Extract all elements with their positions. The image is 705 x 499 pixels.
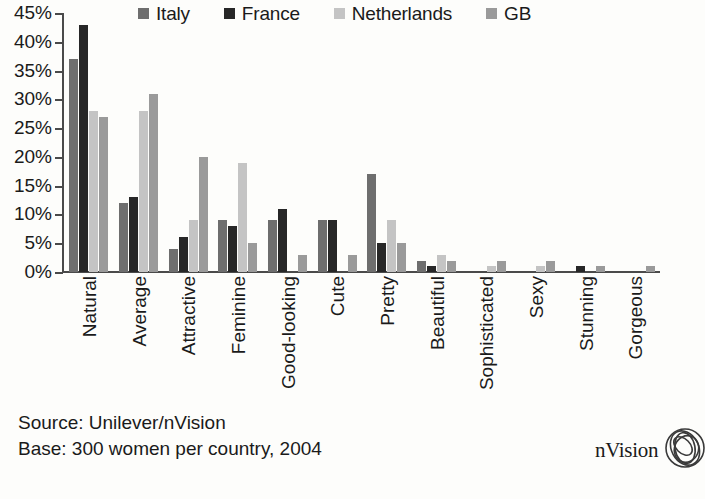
x-axis-tick-label: Average — [129, 276, 148, 346]
bar-france-attractive[interactable] — [179, 237, 188, 272]
source-line: Source: Unilever/nVision — [18, 410, 322, 436]
bar-gb-beautiful[interactable] — [447, 261, 456, 273]
y-axis-labels: 45%40%35%30%25%20%15%10%5%0% — [0, 0, 52, 290]
bar-netherlands-attractive[interactable] — [189, 220, 198, 272]
brand-name: nVision — [595, 440, 658, 461]
bar-cluster — [461, 13, 511, 272]
bar-netherlands-sexy[interactable] — [536, 266, 545, 272]
bar-france-cute[interactable] — [328, 220, 337, 272]
y-axis-tick-mark — [55, 186, 63, 188]
x-axis-tick-label: Attractive — [179, 276, 198, 355]
bar-netherlands-beautiful[interactable] — [437, 255, 446, 272]
bar-cluster — [312, 13, 362, 272]
y-axis-tick-label: 5% — [25, 233, 52, 252]
bar-cluster — [263, 13, 313, 272]
bar-gb-feminine[interactable] — [248, 243, 257, 272]
x-axis-labels: NaturalAverageAttractiveFeminineGood-loo… — [64, 276, 660, 396]
bar-gb-good-looking[interactable] — [298, 255, 307, 272]
x-axis-label-cell: Gorgeous — [610, 276, 660, 396]
x-axis-label-cell: Stunning — [561, 276, 611, 396]
x-axis-label-cell: Natural — [64, 276, 114, 396]
bar-france-natural[interactable] — [79, 25, 88, 272]
y-axis-tick-mark — [55, 13, 63, 15]
bar-gb-cute[interactable] — [348, 255, 357, 272]
bar-netherlands-sophisticated[interactable] — [487, 266, 496, 272]
x-axis-tick-label: Natural — [79, 276, 98, 337]
x-axis-label-cell: Feminine — [213, 276, 263, 396]
bar-cluster — [64, 13, 114, 272]
bar-italy-cute[interactable] — [318, 220, 327, 272]
y-axis-tick-label: 10% — [14, 204, 52, 223]
bar-netherlands-feminine[interactable] — [238, 163, 247, 272]
x-axis-label-cell: Attractive — [163, 276, 213, 396]
bar-cluster — [362, 13, 412, 272]
x-axis-tick-label: Gorgeous — [626, 276, 645, 359]
x-axis-tick-label: Sexy — [526, 276, 545, 318]
bar-clusters — [64, 13, 660, 272]
y-axis-tick-label: 25% — [14, 118, 52, 137]
y-axis-tick-label: 20% — [14, 147, 52, 166]
y-axis-tick-mark — [55, 71, 63, 73]
bar-italy-feminine[interactable] — [218, 220, 227, 272]
y-axis-tick-label: 45% — [14, 3, 52, 22]
bar-cluster — [561, 13, 611, 272]
bar-gb-stunning[interactable] — [596, 266, 605, 272]
bar-gb-pretty[interactable] — [397, 243, 406, 272]
y-axis-tick-mark — [55, 99, 63, 101]
x-axis-label-cell: Average — [114, 276, 164, 396]
bar-italy-average[interactable] — [119, 203, 128, 272]
y-axis-tick-label: 15% — [14, 176, 52, 195]
x-axis-label-cell: Pretty — [362, 276, 412, 396]
brand-logo: nVision — [595, 425, 705, 475]
bar-cluster — [610, 13, 660, 272]
bar-italy-beautiful[interactable] — [417, 261, 426, 273]
bar-gb-natural[interactable] — [99, 117, 108, 272]
bar-cluster — [163, 13, 213, 272]
bar-netherlands-natural[interactable] — [89, 111, 98, 272]
x-axis-tick-label: Cute — [328, 276, 347, 316]
bar-france-good-looking[interactable] — [278, 209, 287, 272]
y-axis-tick-mark — [55, 272, 63, 274]
chart-container: ItalyFranceNetherlandsGB 45%40%35%30%25%… — [0, 0, 705, 499]
x-axis-label-cell: Good-looking — [263, 276, 313, 396]
bar-netherlands-pretty[interactable] — [387, 220, 396, 272]
y-axis-tick-mark — [55, 42, 63, 44]
x-axis-tick-label: Stunning — [576, 276, 595, 351]
overlapping-circles-logo-icon — [662, 425, 705, 475]
bar-gb-sexy[interactable] — [546, 261, 555, 273]
y-axis-tick-mark — [55, 157, 63, 159]
bar-italy-attractive[interactable] — [169, 249, 178, 272]
y-axis-tick-mark — [55, 214, 63, 216]
x-axis-tick-label: Sophisticated — [477, 276, 496, 390]
bar-france-feminine[interactable] — [228, 226, 237, 272]
bar-gb-gorgeous[interactable] — [646, 266, 655, 272]
x-axis-label-cell: Sexy — [511, 276, 561, 396]
bar-cluster — [213, 13, 263, 272]
bar-france-average[interactable] — [129, 197, 138, 272]
y-axis-tick-label: 35% — [14, 61, 52, 80]
y-axis-tick-mark — [55, 128, 63, 130]
bar-gb-average[interactable] — [149, 94, 158, 272]
x-axis-tick-label: Pretty — [377, 276, 396, 326]
bar-gb-attractive[interactable] — [199, 157, 208, 272]
chart-footnote: Source: Unilever/nVision Base: 300 women… — [18, 410, 322, 462]
bar-france-stunning[interactable] — [576, 266, 585, 272]
x-axis-tick-label: Feminine — [228, 276, 247, 354]
bar-italy-natural[interactable] — [69, 59, 78, 272]
x-axis-label-cell: Beautiful — [412, 276, 462, 396]
bar-netherlands-average[interactable] — [139, 111, 148, 272]
bar-france-beautiful[interactable] — [427, 266, 436, 272]
y-axis-tick-label: 40% — [14, 32, 52, 51]
bar-italy-pretty[interactable] — [367, 174, 376, 272]
base-line: Base: 300 women per country, 2004 — [18, 436, 322, 462]
bar-cluster — [412, 13, 462, 272]
bar-cluster — [114, 13, 164, 272]
x-axis-tick-label: Good-looking — [278, 276, 297, 389]
bar-gb-sophisticated[interactable] — [497, 261, 506, 273]
x-axis-tick-label: Beautiful — [427, 276, 446, 350]
bar-france-pretty[interactable] — [377, 243, 386, 272]
bar-cluster — [511, 13, 561, 272]
y-axis-tick-label: 0% — [25, 262, 52, 281]
bar-italy-good-looking[interactable] — [268, 220, 277, 272]
y-axis-tick-label: 30% — [14, 89, 52, 108]
